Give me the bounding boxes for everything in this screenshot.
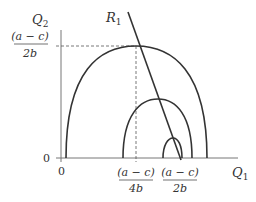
y-marker-fraction: (a − c) 2b: [11, 30, 49, 60]
reaction-curve-diagram: Q2 Q1 R1 0 0 (a − c) 2b (a − c) 4b (a − …: [0, 0, 256, 202]
svg-text:(a − c): (a − c): [117, 166, 155, 179]
line-label-r1: R1: [105, 10, 122, 27]
svg-text:(a − c): (a − c): [161, 166, 199, 179]
x-axis-label: Q1: [232, 165, 248, 182]
svg-text:4b: 4b: [128, 182, 143, 195]
isoprofit-arc-outer: [66, 46, 207, 158]
y-axis-label: Q2: [32, 12, 48, 29]
x-marker-fraction-2b: (a − c) 2b: [161, 166, 199, 195]
origin-x-tick: 0: [58, 165, 65, 178]
svg-text:2b: 2b: [22, 47, 37, 60]
svg-text:2b: 2b: [172, 182, 187, 195]
origin-y-tick: 0: [43, 152, 50, 165]
x-marker-fraction-4b: (a − c) 4b: [117, 166, 155, 195]
svg-text:(a − c): (a − c): [11, 30, 49, 43]
